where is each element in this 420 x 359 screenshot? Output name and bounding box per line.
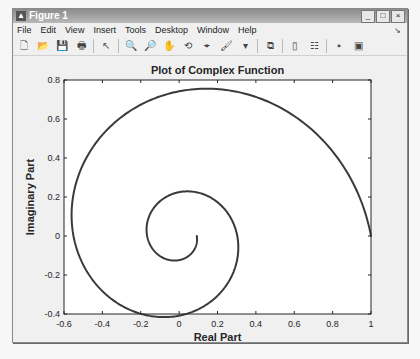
toolbar-separator [326, 39, 327, 53]
x-tick-label: -0.2 [133, 319, 149, 329]
zoom-out-button[interactable]: 🔎 [143, 39, 157, 53]
print-figure-icon: 🖶 [77, 40, 86, 51]
menu-help[interactable]: Help [238, 25, 257, 35]
print-figure-button[interactable]: 🖶 [74, 39, 88, 53]
x-axis-label: Real Part [194, 331, 242, 342]
x-tick-label: -0.6 [56, 319, 72, 329]
x-tick-label: 0.2 [211, 319, 224, 329]
menu-window[interactable]: Window [197, 25, 229, 35]
zoom-out-icon: 🔎 [144, 40, 156, 51]
open-file-button[interactable]: 📂 [36, 39, 50, 53]
y-tick-label: -0.2 [44, 270, 60, 280]
show-plot-tools-button[interactable]: ▣ [351, 39, 365, 53]
edit-plot-button[interactable]: ↖ [99, 39, 113, 53]
x-tick-label: 0.8 [326, 319, 339, 329]
menu-file[interactable]: File [17, 25, 32, 35]
dock-figure-icon[interactable]: ↘ [394, 26, 401, 35]
close-button[interactable]: × [391, 10, 405, 23]
zoom-in-button[interactable]: 🔍 [124, 39, 138, 53]
x-tick-label: 0.6 [288, 319, 301, 329]
insert-colorbar-icon: ▯ [292, 40, 298, 51]
menu-insert[interactable]: Insert [93, 25, 116, 35]
new-figure-button[interactable]: 🗋 [17, 39, 31, 53]
toolbar-separator [118, 39, 119, 53]
menu-desktop[interactable]: Desktop [155, 25, 188, 35]
pan-button[interactable]: ✋ [162, 39, 176, 53]
menu-tools[interactable]: Tools [125, 25, 146, 35]
x-tick-label: 1 [368, 319, 373, 329]
y-axis-label: Imaginary Part [24, 158, 36, 235]
x-tick-label: -0.4 [95, 319, 111, 329]
matlab-logo-icon: ▲ [16, 11, 26, 21]
plot-axes[interactable]: Plot of Complex Function Real Part Imagi… [13, 56, 407, 342]
y-tick-label: 0.6 [47, 114, 60, 124]
rotate-3d-button[interactable]: ⟲ [181, 39, 195, 53]
edit-plot-icon: ↖ [102, 40, 110, 51]
toolbar-separator [282, 39, 283, 53]
hide-plot-tools-icon: ▪ [337, 40, 341, 51]
brush-dropdown-icon: ▾ [243, 40, 248, 51]
brush-button[interactable]: 🖌 [219, 39, 233, 53]
brush-dropdown-button[interactable]: ▾ [238, 39, 252, 53]
brush-icon: 🖌 [220, 40, 233, 51]
menu-bar: File Edit View Insert Tools Desktop Wind… [13, 23, 407, 37]
insert-legend-icon: ☷ [310, 40, 319, 51]
minimize-button[interactable]: _ [361, 10, 375, 23]
toolbar-separator [257, 39, 258, 53]
y-tick-label: 0.8 [47, 75, 60, 85]
y-tick-label: -0.4 [44, 309, 60, 319]
show-plot-tools-icon: ▣ [354, 40, 363, 51]
pan-icon: ✋ [163, 40, 175, 51]
window-title: Figure 1 [29, 10, 68, 21]
maximize-button[interactable]: □ [376, 10, 390, 23]
figure-toolbar: 🗋📂💾🖶↖🔍🔎✋⟲⌖🖌▾⧉▯☷▪▣ [13, 37, 407, 56]
y-tick-label: 0 [55, 231, 60, 241]
save-figure-button[interactable]: 💾 [55, 39, 69, 53]
toolbar-separator [93, 39, 94, 53]
data-cursor-button[interactable]: ⌖ [200, 39, 214, 53]
save-figure-icon: 💾 [56, 40, 68, 51]
menu-edit[interactable]: Edit [41, 25, 57, 35]
link-plot-icon: ⧉ [267, 40, 274, 51]
chart-title: Plot of Complex Function [151, 64, 284, 76]
hide-plot-tools-button[interactable]: ▪ [332, 39, 346, 53]
y-tick-label: 0.2 [47, 192, 60, 202]
insert-colorbar-button[interactable]: ▯ [288, 39, 302, 53]
figure-canvas: Plot of Complex Function Real Part Imagi… [13, 56, 407, 342]
figure-window: ▲ Figure 1 _ □ × File Edit View Insert T… [12, 8, 408, 343]
data-cursor-icon: ⌖ [204, 40, 210, 51]
zoom-in-icon: 🔍 [125, 40, 137, 51]
new-figure-icon: 🗋 [20, 40, 28, 51]
x-tick-label: 0.4 [250, 319, 263, 329]
link-plot-button[interactable]: ⧉ [263, 39, 277, 53]
menu-view[interactable]: View [65, 25, 84, 35]
title-bar[interactable]: ▲ Figure 1 _ □ × [13, 9, 407, 23]
x-tick-label: 0 [177, 319, 182, 329]
insert-legend-button[interactable]: ☷ [307, 39, 321, 53]
open-file-icon: 📂 [37, 40, 49, 51]
y-tick-label: 0.4 [47, 153, 60, 163]
rotate-3d-icon: ⟲ [184, 40, 192, 51]
